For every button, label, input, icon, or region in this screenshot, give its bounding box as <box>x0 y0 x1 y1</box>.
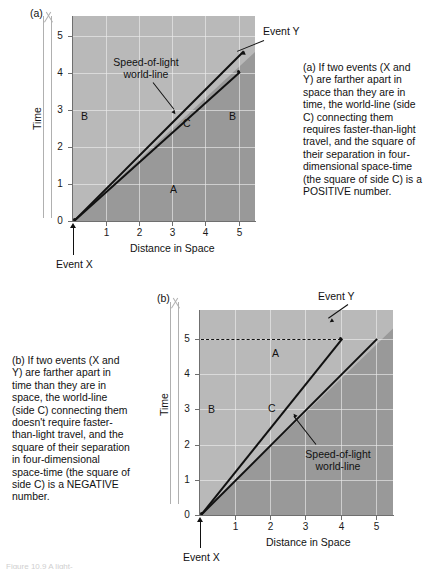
tick-y <box>68 147 72 148</box>
panel-a-plot-area: B B A C Speed-of-light world-line <box>73 16 255 221</box>
tick-y <box>68 184 72 185</box>
gridline-h <box>200 374 393 375</box>
panel-a-y-axis-title: Time <box>32 107 43 130</box>
panel-b-light-line-callout-line2: world-line <box>316 460 361 472</box>
gridline-v <box>239 16 240 221</box>
panel-b-light-line-callout: Speed-of-light world-line <box>295 448 381 472</box>
panel-b-event-y-dot <box>339 337 342 340</box>
panel-b-time-arrow <box>170 296 179 504</box>
gridline-h <box>73 36 255 37</box>
tick-y <box>195 480 199 481</box>
panel-b-body-text: (b) If two events (X and Y) are farther … <box>12 355 132 504</box>
gridline-h <box>73 184 255 185</box>
panel-b-x-ticklabel-4: 4 <box>335 522 348 532</box>
panel-b-event-x-leader <box>200 522 201 548</box>
panel-a: (a) Time B B A C <box>0 0 426 282</box>
panel-a-event-y-label: Event Y <box>263 25 300 37</box>
panel-a-light-line-callout: Speed-of-light world-line <box>103 56 189 80</box>
panel-b-y-ticklabel-2: 2 <box>181 440 193 450</box>
panel-a-x-axis-title: Distance in Space <box>130 243 215 254</box>
panel-a-y-ticklabel-3: 3 <box>54 105 66 115</box>
tick-x <box>270 516 271 520</box>
tick-x <box>235 516 236 520</box>
panel-a-x-ticklabel-3: 3 <box>166 228 179 238</box>
panel-b-time-reference-dashed-line <box>201 339 341 340</box>
panel-a-event-y-dot <box>237 70 240 73</box>
figure-caption: Figure 10.9 A light- <box>6 562 206 569</box>
panel-a-region-b-left-label: B <box>81 111 88 122</box>
panel-a-x-ticklabel-5: 5 <box>233 228 246 238</box>
panel-a-body-text: (a) If two events (X and Y) are farther … <box>303 62 423 198</box>
tick-y <box>68 73 72 74</box>
panel-a-light-line-callout-line1: Speed-of-light <box>113 56 178 68</box>
tick-y <box>68 221 72 222</box>
tick-y <box>195 445 199 446</box>
panel-a-y-ticklabel-0: 0 <box>54 216 66 226</box>
panel-b-y-ticklabel-0: 0 <box>181 510 193 520</box>
panel-b-y-axis <box>199 310 200 516</box>
gridline-v <box>235 310 236 515</box>
panel-a-time-arrow <box>43 10 52 218</box>
tick-y <box>68 36 72 37</box>
panel-b-event-y-label: Event Y <box>318 290 355 302</box>
panel-a-x-ticklabel-4: 4 <box>199 228 212 238</box>
panel-b-y-axis-title: Time <box>159 393 170 416</box>
panel-b-light-line-callout-line1: Speed-of-light <box>305 448 370 460</box>
tick-x <box>139 222 140 226</box>
panel-b-label: (b) <box>157 293 170 304</box>
tick-y <box>195 515 199 516</box>
tick-x <box>305 516 306 520</box>
panel-a-x-axis <box>72 221 256 222</box>
panel-a-event-x-label: Event X <box>56 258 93 270</box>
panel-a-y-ticklabel-1: 1 <box>54 179 66 189</box>
panel-b-x-ticklabel-5: 5 <box>370 522 383 532</box>
panel-a-light-line-callout-line2: world-line <box>124 68 169 80</box>
panel-b-y-ticklabel-5: 5 <box>181 334 193 344</box>
tick-x <box>376 516 377 520</box>
panel-b-region-b-label: B <box>208 404 215 415</box>
panel-b-y-ticklabel-3: 3 <box>181 404 193 414</box>
tick-x <box>172 222 173 226</box>
panel-a-y-ticklabel-4: 4 <box>54 68 66 78</box>
tick-y <box>195 339 199 340</box>
gridline-v <box>139 16 140 221</box>
panel-b-plot-area: B A C Speed-of-light world-line <box>200 310 393 515</box>
panel-b-x-axis-title: Distance in Space <box>266 537 351 548</box>
panel-b-x-axis <box>199 515 394 516</box>
tick-y <box>68 110 72 111</box>
panel-b-side-c-label: C <box>268 403 276 414</box>
gridline-h <box>200 445 393 446</box>
panel-a-region-b-right-label: B <box>229 111 236 122</box>
tick-x <box>341 516 342 520</box>
panel-a-x-ticklabel-2: 2 <box>133 228 146 238</box>
panel-b-x-ticklabel-2: 2 <box>264 522 277 532</box>
tick-y <box>195 409 199 410</box>
tick-x <box>205 222 206 226</box>
panel-a-y-ticklabel-5: 5 <box>54 31 66 41</box>
panel-a-label: (a) <box>30 8 43 19</box>
gridline-h <box>200 409 393 410</box>
panel-a-y-ticklabel-2: 2 <box>54 142 66 152</box>
gridline-v <box>305 310 306 515</box>
tick-x <box>106 222 107 226</box>
tick-y <box>195 374 199 375</box>
gridline-v <box>205 16 206 221</box>
panel-b-x-ticklabel-1: 1 <box>229 522 242 532</box>
panel-b-region-a-label: A <box>272 348 279 359</box>
panel-a-side-c-label: C <box>183 118 191 129</box>
panel-a-y-axis <box>72 16 73 222</box>
panel-a-x-ticklabel-1: 1 <box>100 228 113 238</box>
panel-b-y-ticklabel-1: 1 <box>181 475 193 485</box>
gridline-h <box>73 110 255 111</box>
panel-b-y-ticklabel-4: 4 <box>181 369 193 379</box>
panel-b-x-ticklabel-3: 3 <box>299 522 312 532</box>
gridline-h <box>73 147 255 148</box>
tick-x <box>239 222 240 226</box>
panel-a-region-a-label: A <box>170 184 177 195</box>
panel-a-event-x-leader <box>73 228 74 255</box>
panel-b: (b) Time B A C <box>0 282 426 569</box>
